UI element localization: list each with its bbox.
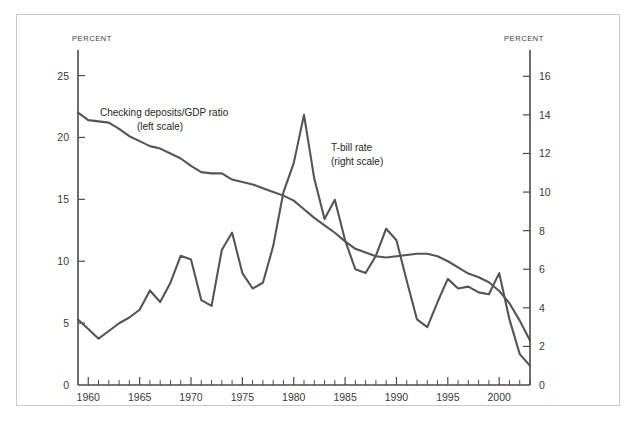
right-axis-tick-label: 10: [539, 186, 551, 198]
x-axis-tick-label: 1995: [436, 391, 460, 403]
left-axis-tick-label: 0: [63, 379, 69, 391]
right-axis-tick-label: 14: [539, 109, 551, 121]
chart-canvas: 0510152025PERCENT0246810121416PERCENT196…: [0, 0, 644, 431]
right-axis-tick-label: 2: [539, 340, 545, 352]
right-axis-title: PERCENT: [504, 34, 544, 43]
chart-figure: 0510152025PERCENT0246810121416PERCENT196…: [0, 0, 644, 431]
series-label-t-bill-rate: T-bill rate: [331, 142, 373, 153]
left-axis-tick-label: 15: [57, 193, 69, 205]
left-axis-tick-label: 10: [57, 255, 69, 267]
right-axis-tick-label: 0: [539, 379, 545, 391]
x-axis-tick-label: 1990: [385, 391, 409, 403]
x-axis-tick-label: 2000: [488, 391, 512, 403]
right-axis-tick-label: 6: [539, 263, 545, 275]
data-line-checking-deposits: [78, 113, 530, 341]
data-line-t-bill-rate: [78, 115, 530, 366]
right-axis-tick-label: 8: [539, 225, 545, 237]
right-axis-tick-label: 4: [539, 302, 545, 314]
right-axis-tick-label: 12: [539, 147, 551, 159]
left-axis-tick-label: 5: [63, 317, 69, 329]
x-axis-tick-label: 1970: [179, 391, 203, 403]
left-axis-title: PERCENT: [72, 34, 112, 43]
left-axis-tick-label: 25: [57, 70, 69, 82]
x-axis-tick-label: 1975: [231, 391, 255, 403]
right-axis-tick-label: 16: [539, 70, 551, 82]
x-axis-tick-label: 1965: [128, 391, 152, 403]
x-axis-tick-label: 1980: [282, 391, 306, 403]
x-axis-tick-label: 1960: [77, 391, 101, 403]
x-axis-tick-label: 1985: [333, 391, 357, 403]
series-label-checking-deposits-scale: (left scale): [137, 121, 183, 132]
left-axis-tick-label: 20: [57, 131, 69, 143]
series-label-checking-deposits: Checking deposits/GDP ratio: [100, 107, 229, 118]
series-label-t-bill-rate-scale: (right scale): [331, 156, 383, 167]
